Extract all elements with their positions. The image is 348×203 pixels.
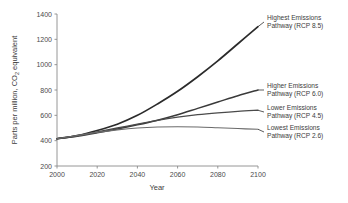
- chart-canvas: 200400600800100012001400 200020202040206…: [0, 0, 348, 203]
- series-lines: [57, 27, 258, 139]
- annotation-line-2: Pathway (RCP 6.0): [267, 90, 323, 98]
- x-axis-ticks: 200020202040206020802100: [49, 166, 266, 178]
- x-axis-title: Year: [149, 183, 165, 192]
- y-axis-title: Parts per million, CO2 equivalent: [10, 35, 20, 144]
- annotation-line-2: Pathway (RCP 8.5): [267, 22, 323, 30]
- annotation-leader-lines: [258, 22, 264, 132]
- y-tick-label: 1200: [36, 36, 52, 43]
- annotation-leader-line: [258, 110, 264, 112]
- annotation-line-1: Lower Emissions: [267, 104, 318, 111]
- annotation-leader-line: [258, 129, 264, 132]
- annotation-line-2: Pathway (RCP 2.6): [267, 132, 323, 140]
- annotation-line-1: Highest Emissions: [267, 14, 322, 22]
- x-tick-label: 2060: [170, 171, 186, 178]
- x-tick-label: 2000: [49, 171, 65, 178]
- annotation-leader-line: [258, 22, 264, 27]
- annotation-line-1: Higher Emissions: [267, 82, 319, 90]
- y-tick-label: 200: [40, 163, 52, 170]
- x-tick-label: 2080: [210, 171, 226, 178]
- y-axis-title-tail: equivalent: [10, 35, 19, 72]
- y-tick-label: 400: [40, 137, 52, 144]
- series-line: [57, 90, 258, 139]
- emissions-pathway-chart: 200400600800100012001400 200020202040206…: [0, 0, 348, 203]
- y-tick-label: 800: [40, 87, 52, 94]
- y-tick-label: 600: [40, 112, 52, 119]
- series-line: [57, 27, 258, 139]
- y-tick-label: 1400: [36, 11, 52, 18]
- y-axis-title-main: Parts per million, CO: [10, 75, 19, 144]
- annotation-line-2: Pathway (RCP 4.5): [267, 112, 323, 120]
- x-tick-label: 2100: [250, 171, 266, 178]
- series-annotations: Highest EmissionsPathway (RCP 8.5)Higher…: [267, 14, 323, 140]
- y-axis-ticks: 200400600800100012001400: [36, 11, 57, 170]
- x-tick-label: 2040: [130, 171, 146, 178]
- x-tick-label: 2020: [89, 171, 105, 178]
- annotation-line-1: Lowest Emissions: [267, 124, 320, 131]
- y-tick-label: 1000: [36, 61, 52, 68]
- svg-text:Parts per million, CO2 equival: Parts per million, CO2 equivalent: [10, 35, 20, 144]
